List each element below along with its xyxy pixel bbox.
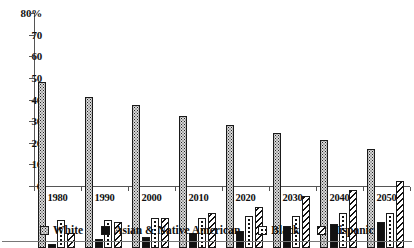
- x-axis-tick-mark: [410, 187, 411, 191]
- bar-chart: 01020304050607080% 198019902000201020202…: [0, 0, 414, 248]
- y-axis-tick-label: 70: [0, 29, 42, 41]
- legend-divider: [2, 241, 412, 242]
- legend-label: Hispanic: [330, 224, 373, 236]
- y-axis-tick-label: 0: [0, 180, 42, 192]
- y-axis-tick-mark: [29, 56, 34, 57]
- x-axis-tick-mark: [316, 187, 317, 191]
- x-axis-tick-mark: [81, 187, 82, 191]
- y-axis-tick-label: 30: [0, 115, 42, 127]
- x-axis-tick-mark: [128, 187, 129, 191]
- y-axis-tick-label: 50: [0, 72, 42, 84]
- legend-swatch-icon: [101, 226, 110, 235]
- legend-item[interactable]: Hispanic: [317, 224, 373, 236]
- legend-item[interactable]: Asian & Native American: [101, 224, 240, 236]
- y-axis-tick-label: 10: [0, 158, 42, 170]
- y-axis-tick-mark: [29, 35, 34, 36]
- y-axis-tick-mark: [29, 13, 34, 14]
- y-axis-tick-mark: [29, 143, 34, 144]
- legend-label: White: [53, 224, 83, 236]
- x-axis-tick-mark: [34, 187, 35, 191]
- x-axis-tick-mark: [175, 187, 176, 191]
- legend-swatch-icon: [258, 226, 267, 235]
- y-axis-tick-label: 80%: [0, 7, 42, 19]
- legend-swatch-icon: [317, 226, 326, 235]
- y-axis-tick-mark: [29, 78, 34, 79]
- chart-legend: WhiteAsian & Native AmericanBlackHispani…: [0, 220, 414, 240]
- y-axis-tick-label: 40: [0, 94, 42, 106]
- y-axis-tick-label: 20: [0, 137, 42, 149]
- y-axis-tick-mark: [29, 121, 34, 122]
- x-axis-tick-mark: [222, 187, 223, 191]
- legend-item[interactable]: White: [40, 224, 83, 236]
- bar: [48, 244, 56, 248]
- x-axis-tick-mark: [363, 187, 364, 191]
- y-axis-tick-mark: [29, 100, 34, 101]
- legend-swatch-icon: [40, 226, 49, 235]
- legend-item[interactable]: Black: [258, 224, 299, 236]
- y-axis-tick-mark: [29, 164, 34, 165]
- y-axis-tick-label: 60: [0, 50, 42, 62]
- legend-label: Black: [271, 224, 299, 236]
- legend-label: Asian & Native American: [114, 224, 240, 236]
- x-axis-tick-mark: [269, 187, 270, 191]
